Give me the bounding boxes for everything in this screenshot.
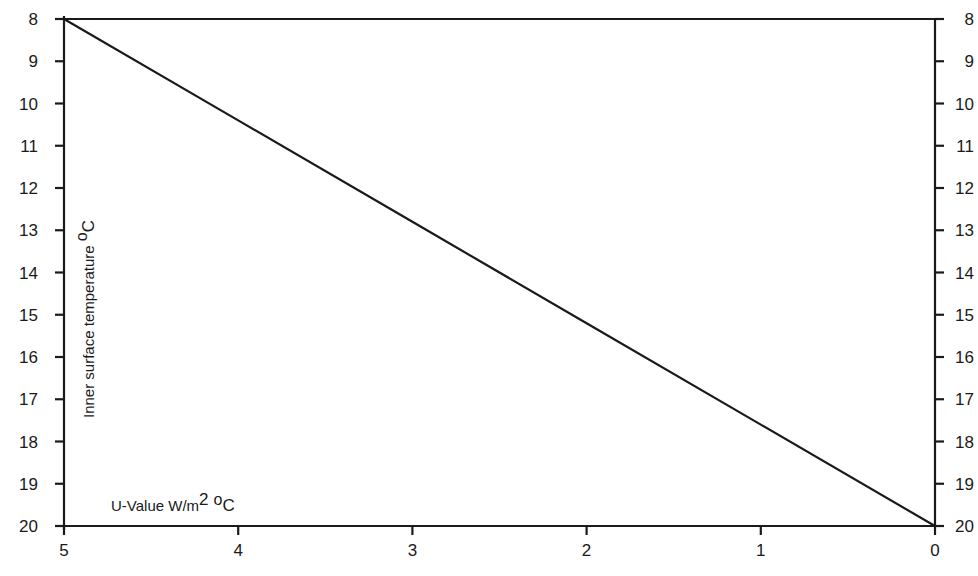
y-tick-label-right: 17 xyxy=(955,390,974,409)
y-tick-label-right: 10 xyxy=(955,95,974,114)
y-tick-label: 9 xyxy=(29,52,38,71)
y-tick-label: 19 xyxy=(19,475,38,494)
x-tick-label: 3 xyxy=(408,541,417,560)
y-tick-label-right: 11 xyxy=(956,137,974,156)
right-y-axis: 8 91011121314151617181920 xyxy=(935,10,974,536)
y-tick-label-right: 15 xyxy=(955,306,974,325)
x-tick-label: 5 xyxy=(59,541,68,560)
y-tick-label-right: 12 xyxy=(955,179,974,198)
x-axis-title: U-Value W/m2oC xyxy=(111,490,235,515)
chart: 891011121314151617181920 8 9101112131415… xyxy=(0,0,978,576)
data-series xyxy=(64,19,935,526)
y-tick-label: 12 xyxy=(19,179,38,198)
y-tick-label-right: 18 xyxy=(955,433,974,452)
y-tick-label-right: 9 xyxy=(965,52,974,71)
y-tick-label: 16 xyxy=(19,348,38,367)
x-tick-label: 2 xyxy=(582,541,591,560)
y-tick-label: 8 xyxy=(29,10,38,29)
plot-frame xyxy=(56,16,939,530)
x-axis: 543210 xyxy=(59,526,939,560)
x-tick-label: 1 xyxy=(756,541,765,560)
y-tick-label: 15 xyxy=(19,306,38,325)
left-y-axis: 891011121314151617181920 xyxy=(19,10,64,536)
series-line xyxy=(64,19,935,526)
y-tick-label: 10 xyxy=(19,95,38,114)
y-tick-label: 14 xyxy=(19,264,38,283)
y-tick-label-right: 14 xyxy=(955,264,974,283)
y-tick-label-right: 13 xyxy=(955,221,974,240)
y-tick-label: 11 xyxy=(20,137,38,156)
y-tick-label-right: 8 xyxy=(965,10,974,29)
y-tick-label-right: 16 xyxy=(955,348,974,367)
y-tick-label: 13 xyxy=(19,221,38,240)
y-tick-label: 17 xyxy=(19,390,38,409)
y-tick-label-right: 20 xyxy=(955,517,974,536)
y-tick-label: 18 xyxy=(19,433,38,452)
x-tick-label: 0 xyxy=(930,541,939,560)
y-axis-title: Inner surface temperature oC xyxy=(73,220,98,418)
x-tick-label: 4 xyxy=(233,541,242,560)
y-tick-label-right: 19 xyxy=(955,475,974,494)
y-tick-label: 20 xyxy=(19,517,38,536)
